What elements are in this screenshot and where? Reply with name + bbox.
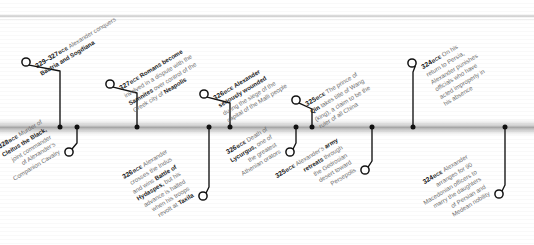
timeline-event-callout: 326 BCE Alexandercrosses the Indusand wi… bbox=[121, 148, 196, 226]
top-divider-rule bbox=[0, 14, 534, 18]
event-anchor-ring[interactable] bbox=[408, 59, 416, 67]
event-connector-line bbox=[413, 66, 415, 127]
timeline-event-callout: 326 BCE Alexanderseriously woundedduring… bbox=[212, 60, 289, 125]
timeline-event-callout: 324 BCE Alexanderarranges for 90Macedoni… bbox=[413, 153, 492, 229]
event-anchor-ring[interactable] bbox=[495, 190, 503, 198]
event-anchor-ring[interactable] bbox=[200, 90, 208, 98]
timeline-event-callout: 327 BCE Romans becomeinvolved in a dispu… bbox=[118, 45, 203, 115]
event-anchor-ring[interactable] bbox=[292, 96, 300, 104]
event-anchor-ring[interactable] bbox=[65, 148, 73, 156]
event-anchor-ring[interactable] bbox=[361, 166, 369, 174]
event-connector-line bbox=[206, 127, 209, 193]
event-connector-line bbox=[502, 127, 505, 191]
event-anchor-ring[interactable] bbox=[286, 148, 294, 156]
top-divider-rule-shadow bbox=[0, 19, 534, 21]
timeline-event-callout: 329–327 BCE Alexander conquersBactria an… bbox=[34, 15, 122, 78]
timeline-infographic: 329–327 BCE Alexander conquersBactria an… bbox=[0, 0, 534, 245]
timeline-event-callout: 324 BCE On hisreturn to Persia,Alexander… bbox=[420, 36, 492, 108]
event-anchor-ring[interactable] bbox=[106, 80, 114, 88]
event-anchor-ring[interactable] bbox=[199, 192, 207, 200]
timeline-event-callout: 325 BCE Alexander’s armyretreats through… bbox=[274, 136, 358, 210]
event-anchor-ring[interactable] bbox=[22, 58, 30, 66]
